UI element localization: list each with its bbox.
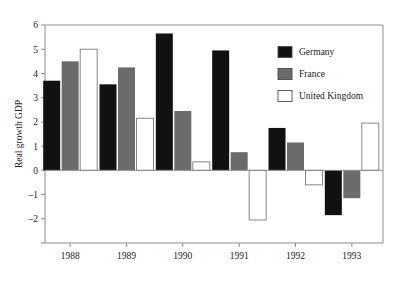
y-tick-label: 4 [33, 69, 38, 79]
bar [325, 170, 342, 215]
bar [343, 170, 360, 198]
bar [174, 111, 191, 170]
y-tick-label: 6 [33, 20, 38, 30]
bar [249, 170, 266, 220]
y-tick-label: 5 [33, 45, 38, 55]
legend-label: Germany [299, 47, 335, 57]
bar [118, 67, 135, 170]
bar [212, 50, 229, 170]
chart-background [0, 0, 408, 283]
legend-label: France [299, 69, 325, 79]
bar [306, 170, 323, 185]
y-tick-label: 2 [33, 117, 38, 127]
bar [80, 49, 97, 170]
legend-swatch [278, 47, 292, 58]
bar [287, 142, 304, 170]
x-tick-label: 1992 [286, 251, 305, 261]
legend-swatch [278, 91, 292, 102]
bar [362, 123, 379, 170]
x-tick-label: 1988 [61, 251, 80, 261]
y-axis-title: Real growth GDP [14, 100, 24, 168]
bar [100, 84, 117, 170]
bar [193, 162, 210, 170]
bar-chart: –2–10123456 198819891990199119921993 Rea… [0, 0, 408, 283]
y-tick-label: –2 [28, 214, 39, 224]
bar [231, 152, 248, 170]
x-tick-label: 1993 [342, 251, 361, 261]
chart-canvas: –2–10123456 198819891990199119921993 Rea… [0, 0, 408, 283]
y-tick-label: 0 [33, 166, 38, 176]
bar [62, 61, 79, 170]
x-tick-label: 1989 [117, 251, 136, 261]
x-tick-label: 1990 [173, 251, 192, 261]
legend-label: United Kingdom [299, 91, 364, 101]
y-tick-label: 1 [33, 142, 38, 152]
legend-swatch [278, 69, 292, 80]
x-tick-label: 1991 [230, 251, 249, 261]
bar [137, 118, 154, 170]
bar [156, 33, 173, 170]
bar [269, 128, 286, 170]
y-tick-label: –1 [28, 190, 39, 200]
y-tick-label: 3 [33, 93, 38, 103]
bar [43, 81, 60, 171]
